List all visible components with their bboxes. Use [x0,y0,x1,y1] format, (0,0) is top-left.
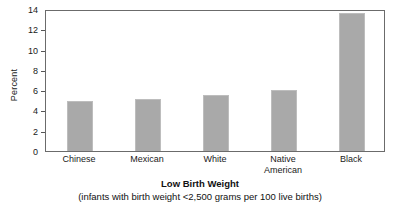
x-axis-tick-label: White [203,154,226,165]
y-axis-tick-labels: 02468101214 [18,10,38,152]
plot-area [46,11,384,151]
chart-title: Low Birth Weight [0,178,400,189]
x-axis-tick-labels: ChineseMexicanWhiteNative AmericanBlack [45,154,385,178]
y-axis-tick-label: 6 [18,87,38,96]
bar [67,101,93,151]
x-axis-tick-label: Mexican [130,154,164,165]
x-axis-tick-label: Black [340,154,362,165]
plot-frame [45,10,385,152]
x-axis-tick-label: Native American [264,154,302,176]
y-axis-tick-label: 8 [18,66,38,75]
bar [271,90,297,151]
y-axis-tick-label: 0 [18,148,38,157]
y-axis-tick-label: 14 [18,6,38,15]
y-axis-tick-label: 10 [18,46,38,55]
bar [203,95,229,151]
bar [339,13,365,151]
chart-subtitle: (infants with birth weight <2,500 grams … [0,191,400,202]
x-axis-tick-label: Chinese [62,154,95,165]
bar-chart-figure: Percent 02468101214 ChineseMexicanWhiteN… [0,0,400,207]
y-axis-tick-label: 4 [18,107,38,116]
bar [135,99,161,151]
y-axis-tick-label: 12 [18,26,38,35]
y-axis-tick-label: 2 [18,127,38,136]
